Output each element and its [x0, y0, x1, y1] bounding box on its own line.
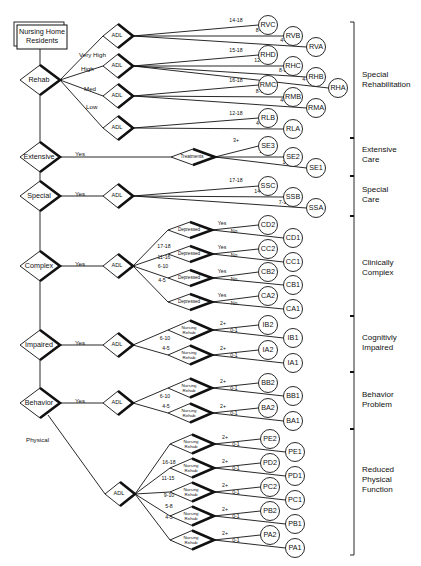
rehab-count-label: 0-1 — [232, 441, 240, 447]
rug-classification-tree: Nursing HomeResidents14-188-134-715-1812… — [0, 0, 421, 566]
rug-code: PA1 — [288, 543, 301, 552]
rug-group-ib1: IB1 — [284, 329, 303, 348]
rug-group-bb2: BB2 — [259, 374, 278, 393]
rehab-count-label: 2+ — [220, 378, 226, 384]
node-label: ADL — [112, 62, 123, 68]
adl-range-label: 15-18 — [229, 47, 242, 53]
rug-group-cc2: CC2 — [259, 240, 278, 259]
title-text: Nursing Home — [19, 27, 65, 36]
rug-code: RLA — [286, 124, 300, 133]
node-label: Depressed — [178, 227, 201, 232]
adl-range-label: 16-18 — [229, 77, 242, 83]
node-label: Rehab — [185, 444, 198, 449]
rug-group-ib2: IB2 — [259, 316, 278, 335]
rug-group-rva: RVA — [307, 38, 326, 57]
outcome-line — [133, 25, 259, 36]
rug-code: SSC — [261, 181, 276, 190]
rug-code: RMA — [308, 103, 324, 112]
nursing-rehab-node: NursingRehab — [168, 404, 212, 423]
category-label: Rehabilitation — [362, 80, 410, 89]
rug-code: BA2 — [261, 403, 275, 412]
edge-label: Yes — [75, 190, 85, 197]
rug-group-pa1: PA1 — [286, 539, 305, 558]
adl-range-label: 11-15 — [162, 475, 175, 481]
rug-group-cd1: CD1 — [284, 229, 303, 248]
rug-code: BB1 — [286, 391, 300, 400]
rug-code: RHC — [285, 61, 301, 70]
rug-code: PE1 — [288, 447, 302, 456]
rug-group-pc1: PC1 — [286, 491, 305, 510]
nursing-rehab-node: NursingRehab — [168, 346, 212, 365]
rug-group-rma: RMA — [307, 99, 326, 118]
rug-group-rmc: RMC — [259, 76, 278, 95]
decision-behavior: Behavior — [20, 388, 60, 418]
rug-group-pd1: PD1 — [286, 467, 305, 486]
category-label: Problem — [362, 400, 392, 409]
edge-label: Yes — [75, 260, 85, 267]
category-label: Care — [362, 155, 380, 164]
edge-label: Yes — [75, 150, 85, 157]
rug-code: PD2 — [263, 458, 277, 467]
rehab-count-label: 0-1 — [230, 385, 238, 391]
rehab-count-label: 0-1 — [230, 410, 238, 416]
rug-group-rhb: RHB — [307, 68, 326, 87]
adl-node: ADL — [103, 254, 133, 278]
category-label: Special — [362, 185, 388, 194]
node-label: ADL — [112, 341, 123, 347]
adl-range-label: 4-5 — [162, 345, 170, 351]
rug-code: RVC — [260, 20, 275, 29]
rug-code: PD1 — [288, 471, 302, 480]
rug-group-pe2: PE2 — [261, 430, 280, 449]
nursing-rehab-node: NursingRehab — [170, 531, 214, 550]
no-label: No — [231, 228, 238, 234]
rug-group-ba1: BA1 — [284, 412, 303, 431]
rug-code: PC2 — [263, 482, 277, 491]
rug-group-pe1: PE1 — [286, 443, 305, 462]
rug-code: CA1 — [286, 304, 300, 313]
rug-code: PA2 — [263, 530, 276, 539]
node-label: Rehab — [185, 540, 198, 545]
adl-node: ADL — [103, 54, 133, 78]
depressed-node: Depressed — [168, 246, 212, 262]
category-label: Special — [362, 70, 388, 79]
edge-label: Med — [84, 85, 97, 92]
category-label: Care — [362, 195, 380, 204]
rug-group-bb1: BB1 — [284, 387, 303, 406]
rug-group-cb2: CB2 — [259, 263, 278, 282]
yes-label: Yes — [218, 244, 227, 250]
rehab-count-label: 0-1 — [230, 327, 238, 333]
rehab-count-label: 2+ — [220, 345, 226, 351]
nursing-rehab-node: NursingRehab — [170, 459, 214, 478]
category-label: Impaired — [362, 343, 393, 352]
adl-range-label: 11-16 — [158, 254, 171, 260]
rug-group-pc2: PC2 — [261, 478, 280, 497]
edge-label: Physical — [26, 436, 49, 443]
rug-code: RLB — [261, 113, 275, 122]
outcome-line — [133, 118, 259, 128]
rug-code: IB1 — [288, 333, 299, 342]
rug-group-ssb: SSB — [284, 188, 303, 207]
no-label: No — [231, 300, 238, 306]
rug-group-ssa: SSA — [307, 199, 326, 218]
rehab-count-label: 0-1 — [232, 513, 240, 519]
decision-complex: Complex — [20, 251, 60, 281]
node-label: Behavior — [25, 398, 54, 407]
adl-range-label: 16-18 — [162, 459, 175, 465]
adl-node: ADL — [103, 333, 133, 357]
adl-range-label: 6-10 — [160, 393, 170, 399]
rug-group-ca1: CA1 — [284, 300, 303, 319]
adl-range-label: 4-5 — [158, 277, 166, 283]
outcome-line — [133, 85, 259, 96]
rug-code: IA2 — [263, 345, 274, 354]
decision-impaired: Impaired — [20, 330, 60, 360]
edge-label: Yes — [75, 397, 85, 404]
rug-group-cd2: CD2 — [259, 216, 278, 235]
rug-group-rla: RLA — [284, 120, 303, 139]
adl-range-label: 6-10 — [158, 263, 168, 269]
rug-group-ssc: SSC — [259, 177, 278, 196]
rehab-edge — [60, 80, 103, 96]
adl-node: ADL — [103, 184, 133, 208]
category-label: Function — [362, 485, 393, 494]
outcome-line — [133, 55, 259, 66]
rug-code: IB2 — [263, 320, 274, 329]
